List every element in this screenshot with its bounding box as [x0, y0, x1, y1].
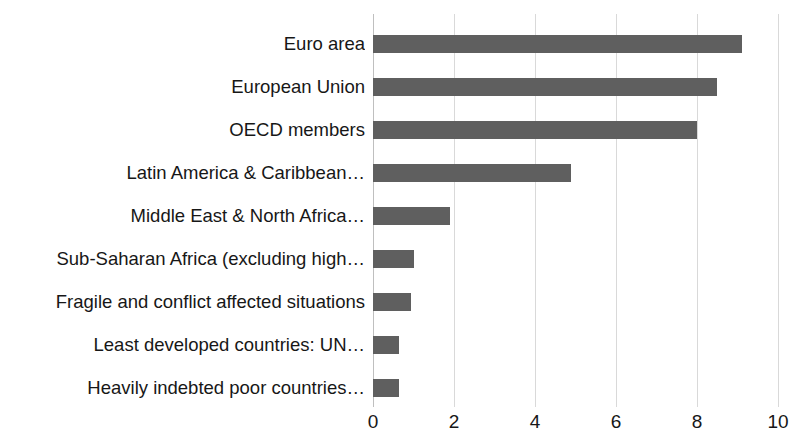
category-label: Fragile and conflict affected situations — [0, 292, 365, 312]
x-tick-label: 8 — [692, 410, 703, 434]
bar[interactable] — [373, 164, 571, 182]
bar[interactable] — [373, 121, 697, 139]
x-tick-label: 6 — [611, 410, 622, 434]
x-tick-label: 10 — [767, 410, 788, 434]
plot-area — [373, 14, 778, 407]
x-tick-label: 4 — [530, 410, 541, 434]
gridline-2 — [454, 14, 455, 407]
gridline-10 — [778, 14, 779, 407]
bar[interactable] — [373, 379, 399, 397]
bar[interactable] — [373, 35, 742, 53]
x-tick-label: 2 — [449, 410, 460, 434]
category-label: OECD members — [0, 120, 365, 140]
value-axis: 0 2 4 6 8 10 — [0, 410, 798, 440]
bar-chart: Euro area European Union OECD members La… — [0, 0, 798, 444]
category-label: Heavily indebted poor countries… — [0, 378, 365, 398]
category-label: European Union — [0, 77, 365, 97]
bar[interactable] — [373, 336, 399, 354]
bar[interactable] — [373, 78, 717, 96]
gridline-4 — [535, 14, 536, 407]
category-label: Euro area — [0, 34, 365, 54]
bar[interactable] — [373, 207, 450, 225]
x-tick-label: 0 — [368, 410, 379, 434]
bar[interactable] — [373, 250, 414, 268]
category-label: Sub-Saharan Africa (excluding high… — [0, 249, 365, 269]
category-label: Middle East & North Africa… — [0, 206, 365, 226]
category-label: Latin America & Caribbean… — [0, 163, 365, 183]
gridline-8 — [697, 14, 698, 407]
gridline-6 — [616, 14, 617, 407]
category-axis: Euro area European Union OECD members La… — [0, 14, 365, 407]
bar[interactable] — [373, 293, 411, 311]
category-label: Least developed countries: UN… — [0, 335, 365, 355]
